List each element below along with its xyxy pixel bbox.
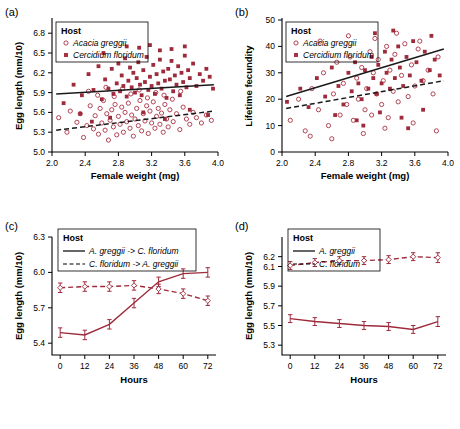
data-point [350,89,354,93]
data-point [148,109,152,113]
data-point [148,75,152,79]
data-point [184,117,188,121]
x-tick-label: 24 [105,361,115,371]
y-tick-label: 5.4 [33,338,45,348]
x-tick-label: 24 [335,361,345,371]
data-point [133,91,137,95]
data-point [150,121,154,125]
data-point [135,106,139,110]
data-point [90,120,94,124]
data-point [62,101,66,105]
legend-marker-open-circle [64,41,68,45]
data-point [168,78,172,82]
legend-title: Host [291,26,311,36]
x-tick-label: 36 [129,361,139,371]
data-point [143,80,147,84]
legend-entry-label: A. greggii [318,246,356,256]
data-point [141,111,145,115]
data-point [428,68,432,72]
data-point [156,286,161,291]
y-tick-label: 6.2 [33,68,45,78]
x-tick-label: 36 [359,361,369,371]
data-point [383,50,387,54]
data-point [82,284,87,289]
legend-title: Host [61,26,81,36]
data-point [403,42,407,46]
data-point [151,63,155,67]
data-point [148,43,152,47]
y-tick-label: 6.1 [263,262,275,272]
data-point [165,96,169,100]
data-point [88,104,92,108]
data-point [93,114,97,118]
data-point [100,97,104,101]
data-point [97,64,101,68]
data-point [326,124,330,128]
y-tick-label: 5.6 [33,107,45,117]
data-point [163,79,167,83]
data-point [145,96,149,100]
x-tick-label: 48 [154,361,164,371]
data-point [330,66,334,70]
data-point [178,127,182,131]
x-axis-title: Hours [350,374,377,385]
x-tick-label: 2.8 [112,158,124,168]
x-axis-title: Hours [120,374,147,385]
data-point [211,87,215,91]
data-point [366,87,370,91]
data-point [103,78,107,82]
data-point [307,105,311,109]
data-point [337,84,341,88]
y-tick-label: 5.9 [33,88,45,98]
x-tick-label: 3.6 [409,158,421,168]
data-point [191,62,195,66]
data-point [338,113,342,117]
data-point [371,76,375,80]
data-point [130,113,134,117]
data-point [342,103,346,107]
data-point [383,126,387,130]
data-point [356,81,360,85]
legend-entry-label: Acacia greggii [72,38,128,48]
data-point [105,112,109,116]
data-point [400,116,404,120]
data-point [363,108,367,112]
panel-d-label: (d) [235,220,248,232]
y-tick-label: 5.9 [263,281,275,291]
x-tick-label: 0 [58,361,63,371]
data-point [155,72,159,76]
x-tick-label: 12 [80,361,90,371]
legend: HostA. greggii -> C. floridumC. floridum… [58,229,196,271]
data-point [126,79,130,83]
panel-a-label: (a) [5,6,18,18]
data-point [198,72,202,76]
data-point [316,108,320,112]
data-point [170,97,174,101]
x-tick-label: 72 [203,361,213,371]
legend-entry-label: A. greggii -> C. floridum [88,246,179,256]
data-point [418,39,422,43]
data-point [376,63,380,67]
data-point [355,76,359,80]
data-point [398,66,402,70]
x-tick-label: 3.6 [179,158,191,168]
data-point [341,81,345,85]
data-point [161,70,165,74]
data-point [156,106,160,110]
data-point [430,34,434,38]
x-tick-label: 3.2 [146,158,158,168]
data-point [386,257,391,262]
data-point [129,92,133,96]
data-point [110,108,114,112]
panel-a-plot: 2.02.42.83.23.64.05.05.35.65.96.26.56.8F… [0,0,230,200]
y-axis-title: Lifetime fecundity [243,45,254,127]
data-point [194,116,198,120]
data-point [153,92,157,96]
data-point [106,138,110,142]
data-point [135,76,139,80]
data-point [91,127,95,131]
data-point [140,93,144,97]
x-tick-label: 2.8 [342,158,354,168]
data-point [411,39,415,43]
data-point [186,68,190,72]
